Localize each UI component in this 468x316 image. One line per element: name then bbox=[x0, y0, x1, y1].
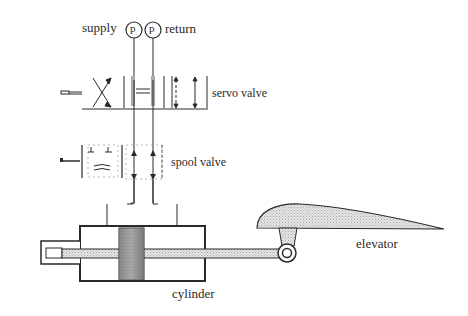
servo-to-spool-pipes bbox=[134, 80, 153, 203]
cylinder-label: cylinder bbox=[172, 287, 215, 300]
servo-valve-label: servo valve bbox=[212, 87, 267, 99]
spool-valve-symbol bbox=[60, 145, 162, 180]
supply-label: supply bbox=[82, 21, 117, 34]
return-label: return bbox=[165, 22, 196, 35]
supply-gauge-symbol: p bbox=[130, 23, 136, 34]
elevator-label: elevator bbox=[356, 237, 398, 250]
return-gauge-symbol: p bbox=[149, 23, 155, 34]
elevator-surface bbox=[257, 204, 444, 262]
spool-to-cylinder-pipes bbox=[107, 180, 177, 227]
spool-valve-label: spool valve bbox=[171, 156, 226, 168]
hydraulic-diagram bbox=[0, 0, 468, 316]
hydraulic-cylinder bbox=[41, 226, 282, 281]
